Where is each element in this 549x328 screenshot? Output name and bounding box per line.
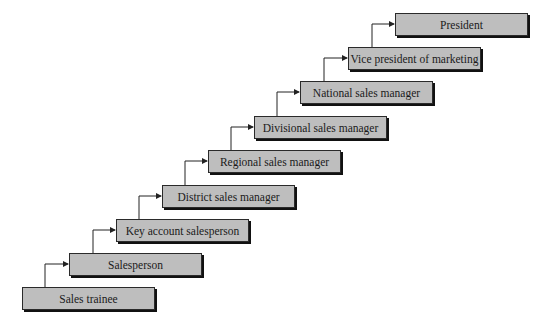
step-regional-sales-manager: Regional sales manager (208, 150, 341, 173)
arrow-key-account-to-district (139, 196, 161, 219)
step-label: National sales manager (313, 87, 420, 99)
arrow-district-to-regional (185, 161, 207, 185)
arrow-trainee-to-salesperson (45, 264, 68, 287)
step-district-sales-manager: District sales manager (162, 185, 295, 208)
step-divisional-sales-manager: Divisional sales manager (254, 116, 387, 139)
arrow-regional-to-divisional (231, 127, 253, 150)
step-label: Divisional sales manager (263, 122, 379, 134)
step-vice-president-of-marketing: Vice president of marketing (348, 47, 481, 70)
step-label: District sales manager (177, 191, 279, 203)
arrow-salesperson-to-key-account (93, 230, 115, 253)
step-key-account-salesperson: Key account salesperson (116, 219, 249, 242)
arrow-vp-to-president (372, 24, 394, 47)
step-salesperson: Salesperson (69, 253, 202, 276)
step-label: President (440, 19, 483, 31)
step-label: Vice president of marketing (351, 53, 479, 65)
step-sales-trainee: Sales trainee (22, 287, 155, 310)
step-label: Salesperson (108, 259, 163, 271)
arrow-divisional-to-national (277, 92, 299, 116)
career-ladder-diagram: Sales trainee Salesperson Key account sa… (0, 0, 549, 328)
step-national-sales-manager: National sales manager (300, 81, 433, 104)
step-label: Key account salesperson (126, 225, 240, 237)
step-label: Sales trainee (59, 293, 117, 305)
step-president: President (395, 13, 528, 36)
step-label: Regional sales manager (220, 156, 329, 168)
arrow-national-to-vp (324, 58, 347, 81)
